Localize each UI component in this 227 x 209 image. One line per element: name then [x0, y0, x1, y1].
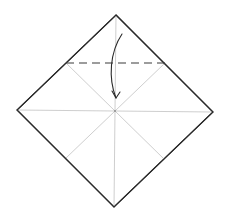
center-point	[114, 110, 116, 112]
origami-diagram	[0, 0, 227, 209]
